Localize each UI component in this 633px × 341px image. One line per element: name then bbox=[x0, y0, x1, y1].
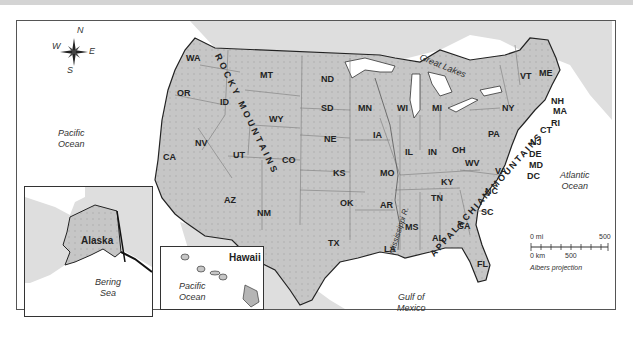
state-NY: NY bbox=[502, 103, 515, 113]
compass-s: S bbox=[67, 65, 73, 76]
state-SC: SC bbox=[481, 207, 494, 217]
alaska-inset: Alaska Bering Sea bbox=[24, 186, 153, 317]
state-OH: OH bbox=[452, 145, 466, 155]
state-MN: MN bbox=[358, 103, 372, 113]
state-NE: NE bbox=[324, 134, 337, 144]
scale-km-start: 0 km bbox=[530, 252, 545, 259]
compass-n: N bbox=[77, 25, 84, 36]
state-IN: IN bbox=[428, 147, 437, 157]
gulf-of-mexico-label: Gulf of Mexico bbox=[397, 292, 426, 314]
state-WA: WA bbox=[186, 53, 201, 63]
scale-km-end: 500 bbox=[565, 252, 577, 259]
state-MA: MA bbox=[553, 106, 567, 116]
hawaii-label: Hawaii bbox=[229, 252, 261, 263]
state-RI: RI bbox=[551, 118, 560, 128]
state-ID: ID bbox=[220, 97, 229, 107]
state-KY: KY bbox=[441, 177, 454, 187]
state-IL: IL bbox=[405, 147, 413, 157]
compass-rose: N S E W bbox=[48, 28, 98, 82]
scale-mi-end: 500 bbox=[599, 233, 611, 240]
hawaii-inset: Hawaii Pacific Ocean bbox=[160, 246, 264, 310]
state-KS: KS bbox=[333, 168, 346, 178]
state-TX: TX bbox=[328, 238, 340, 248]
pacific-ocean-label: Pacific Ocean bbox=[58, 128, 85, 150]
bering-sea-label: Bering Sea bbox=[95, 277, 121, 299]
scale-bar: 0 mi 500 0 km 500 Albers projection bbox=[530, 233, 630, 271]
state-DC: DC bbox=[527, 171, 540, 181]
state-WV: WV bbox=[465, 158, 480, 168]
state-MI: MI bbox=[432, 103, 442, 113]
state-MS: MS bbox=[405, 222, 419, 232]
state-ME: ME bbox=[539, 68, 553, 78]
state-VT: VT bbox=[520, 71, 532, 81]
state-MT: MT bbox=[260, 70, 273, 80]
state-CO: CO bbox=[282, 155, 296, 165]
state-NV: NV bbox=[195, 138, 208, 148]
state-WY: WY bbox=[269, 114, 284, 124]
state-TN: TN bbox=[431, 193, 443, 203]
state-PA: PA bbox=[488, 129, 500, 139]
state-NM: NM bbox=[257, 208, 271, 218]
scale-mi-start: 0 mi bbox=[530, 233, 543, 240]
scale-ruler bbox=[530, 243, 610, 251]
pacific-hawaii-label: Pacific Ocean bbox=[179, 281, 206, 303]
state-MD: MD bbox=[529, 160, 543, 170]
state-WI: WI bbox=[397, 103, 408, 113]
state-IA: IA bbox=[373, 130, 382, 140]
state-ND: ND bbox=[321, 74, 334, 84]
state-NH: NH bbox=[551, 96, 564, 106]
alaska-label: Alaska bbox=[81, 235, 113, 246]
state-OR: OR bbox=[177, 88, 191, 98]
atlantic-ocean-label: Atlantic Ocean bbox=[560, 170, 590, 192]
state-OK: OK bbox=[340, 198, 354, 208]
state-UT: UT bbox=[233, 150, 245, 160]
state-SD: SD bbox=[321, 103, 334, 113]
compass-e: E bbox=[89, 46, 95, 57]
state-CA: CA bbox=[163, 152, 176, 162]
state-AR: AR bbox=[380, 200, 393, 210]
alaska-shape bbox=[25, 187, 152, 316]
state-AZ: AZ bbox=[224, 195, 236, 205]
state-CT: CT bbox=[540, 125, 552, 135]
state-MO: MO bbox=[380, 168, 395, 178]
projection-label: Albers projection bbox=[530, 264, 630, 271]
compass-w: W bbox=[52, 41, 61, 52]
state-FL: FL bbox=[477, 259, 488, 269]
